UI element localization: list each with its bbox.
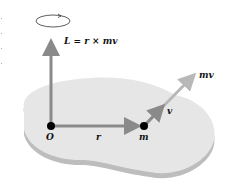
angular-momentum-diagram [0, 0, 228, 187]
origin-point [47, 122, 55, 130]
mass-label: m [139, 132, 149, 142]
angular-momentum-label: L = r × mv [64, 36, 117, 46]
position-label: r [96, 132, 101, 142]
origin-label: O [46, 132, 54, 142]
momentum-label: mv [199, 70, 214, 80]
mass-point [140, 122, 148, 130]
rotation-arrow-icon [36, 14, 70, 27]
velocity-label: v [167, 106, 172, 116]
